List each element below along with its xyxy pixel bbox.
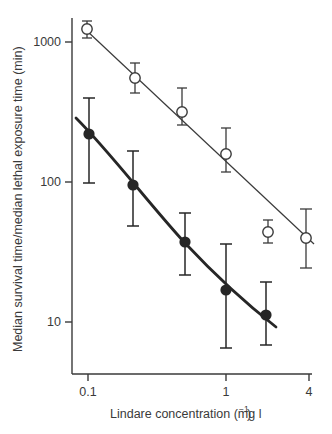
y-tick-label-100: 100: [40, 175, 61, 189]
x-axis-title: Lindare concentration (mg l −1 ): [110, 404, 261, 421]
data-point-open: [130, 73, 140, 83]
x-axis-ticks: [88, 374, 309, 381]
data-point-filled: [260, 309, 271, 320]
x-tick-label-1: 1: [223, 385, 230, 399]
data-point-open: [177, 107, 187, 117]
data-point-filled: [127, 179, 138, 190]
x-tick-label-4: 4: [306, 385, 313, 399]
data-point-filled: [220, 284, 231, 295]
x-axis-tick-labels: 0.1 1 4: [79, 385, 312, 399]
y-axis-ticks: [65, 42, 72, 322]
data-point-open: [221, 149, 231, 159]
y-axis-title: Median survival time/median lethal expos…: [11, 46, 25, 352]
axis-lines: [72, 18, 312, 374]
y-tick-label-10: 10: [47, 315, 61, 329]
error-bar: [83, 98, 95, 183]
series-open-circles: [82, 21, 314, 268]
error-bar: [220, 244, 232, 348]
data-point-open: [263, 227, 273, 237]
filled-series-error-bars: [83, 98, 272, 348]
y-tick-label-1000: 1000: [33, 35, 61, 49]
series-filled-circles: [76, 98, 276, 348]
data-point-filled: [83, 128, 94, 139]
clipped-header-text: [0, 0, 332, 10]
open-series-fit-line: [86, 30, 314, 244]
x-tick-label-0-1: 0.1: [79, 385, 96, 399]
y-axis-tick-labels: 1000 100 10: [33, 35, 61, 329]
data-point-open: [301, 233, 311, 243]
figure-panel: 1000 100 10 0.1 1 4 Median survival time…: [0, 0, 332, 434]
data-point-open: [82, 24, 92, 34]
chart-svg: 1000 100 10 0.1 1 4 Median survival time…: [0, 0, 332, 434]
x-axis-title-tail: ): [247, 407, 251, 421]
data-point-filled: [179, 236, 190, 247]
filled-series-fit-curve: [76, 118, 276, 327]
